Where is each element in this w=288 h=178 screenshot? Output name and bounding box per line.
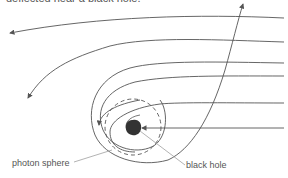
light-ray-1 <box>10 16 284 33</box>
photon-sphere-label: photon sphere <box>12 158 70 168</box>
black-hole-shape <box>126 120 141 135</box>
light-ray-3 <box>91 4 284 163</box>
black-hole-label: black hole <box>186 160 227 170</box>
light-ray-2 <box>28 40 284 99</box>
photon-sphere-pointer <box>74 150 112 162</box>
light-deflection-diagram: photon sphere black hole <box>0 0 288 178</box>
